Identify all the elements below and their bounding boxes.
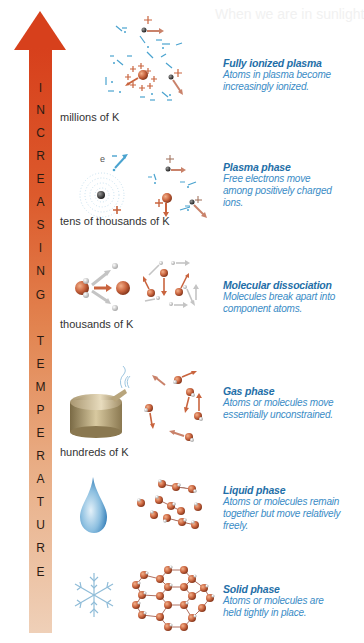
axis-letter: G <box>29 288 52 302</box>
plasma-ions-icon <box>100 12 210 112</box>
axis-letter: N <box>29 264 52 278</box>
phase-title: Liquid phase <box>223 484 341 496</box>
phase-title: Fully ionized plasma <box>223 57 341 69</box>
phase-description: Atoms or molecules move essentially unco… <box>223 397 341 421</box>
axis-letter: E <box>29 426 52 440</box>
axis-letter: P <box>29 403 52 417</box>
phase-title: Solid phase <box>223 583 341 595</box>
axis-letter: R <box>29 449 52 463</box>
arrow-head-icon <box>14 11 66 50</box>
phase-gas: Gas phase Atoms or molecules move essent… <box>223 385 341 421</box>
axis-letter: E <box>29 565 52 579</box>
axis-letter: M <box>29 380 52 394</box>
phase-title: Gas phase <box>223 385 341 397</box>
water-drop-icon <box>75 475 215 540</box>
axis-letter: U <box>29 518 52 532</box>
axis-letter: S <box>29 218 52 232</box>
phase-description: Molecules break apart into component ato… <box>223 291 341 315</box>
phase-title: Molecular dissociation <box>223 279 341 291</box>
phase-liquid: Liquid phase Atoms or molecules remain t… <box>223 484 341 532</box>
axis-letter: N <box>29 103 52 117</box>
axis-letter: A <box>29 195 52 209</box>
axis-letter: C <box>29 126 52 140</box>
atom-ionization-icon: e <box>70 150 220 220</box>
temperature-label-millions: millions of K <box>60 111 119 123</box>
phase-description: Atoms in plasma become increasingly ioni… <box>223 69 341 93</box>
phase-plasma: Plasma phase Free electrons move among p… <box>223 161 341 209</box>
axis-letter: T <box>29 495 52 509</box>
axis-letter: E <box>29 357 52 371</box>
phase-title: Plasma phase <box>223 161 341 173</box>
phase-description: Atoms or molecules are held tightly in p… <box>223 595 341 619</box>
axis-letter: T <box>29 334 52 348</box>
snowflake-icon <box>72 565 217 635</box>
electron-label: e <box>100 154 105 164</box>
steaming-pot-icon <box>65 370 215 445</box>
axis-letter: A <box>29 472 52 486</box>
axis-letter: I <box>29 241 52 255</box>
molecule-splitting-icon <box>65 258 215 318</box>
phase-description: Atoms or molecules remain together but m… <box>223 496 341 532</box>
axis-letter: R <box>29 541 52 555</box>
phase-molecular-dissociation: Molecular dissociation Molecules break a… <box>223 279 341 315</box>
axis-letter: E <box>29 172 52 186</box>
temperature-label-thousands: thousands of K <box>60 318 133 330</box>
phase-fully-ionized-plasma: Fully ionized plasma Atoms in plasma bec… <box>223 57 341 93</box>
axis-letter: R <box>29 149 52 163</box>
temperature-label-hundreds: hundreds of K <box>60 446 129 458</box>
background-bleed-text: When we are in sunlight <box>215 6 364 22</box>
phase-description: Free electrons move among positively cha… <box>223 173 341 209</box>
phase-solid: Solid phase Atoms or molecules are held … <box>223 583 341 619</box>
axis-letter: I <box>29 81 52 95</box>
